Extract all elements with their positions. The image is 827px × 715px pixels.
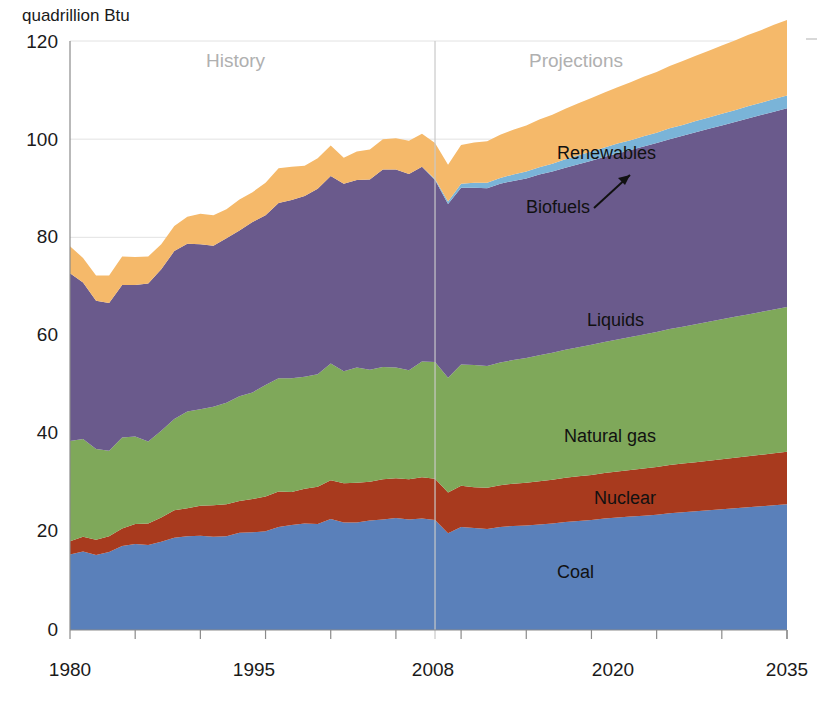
y-axis-unit-label: quadrillion Btu [22,6,130,25]
series-label-natural-gas: Natural gas [564,426,656,446]
x-tick-label-2035: 2035 [766,659,808,680]
y-tick-label-0: 0 [47,619,58,640]
series-label-liquids: Liquids [587,310,644,330]
series-label-coal: Coal [557,562,594,582]
x-tick-label-2008: 2008 [412,659,454,680]
series-label-biofuels: Biofuels [526,197,590,217]
x-tick-label-2020: 2020 [592,659,634,680]
projections-label: Projections [529,50,623,71]
y-tick-label-20: 20 [37,520,58,541]
y-tick-label-100: 100 [26,129,58,150]
corner-mark-decoration [806,38,817,40]
series-label-renewables: Renewables [557,143,656,163]
y-tick-label-80: 80 [37,226,58,247]
y-tick-label-60: 60 [37,324,58,345]
y-tick-label-40: 40 [37,422,58,443]
energy-consumption-stacked-area-chart: 120 100 80 60 40 20 0 1980 1995 2008 202… [0,0,827,715]
history-label: History [206,50,266,71]
chart-canvas: 120 100 80 60 40 20 0 1980 1995 2008 202… [0,0,827,715]
series-label-nuclear: Nuclear [594,488,656,508]
x-tick-label-1995: 1995 [233,659,275,680]
y-tick-label-120: 120 [26,31,58,52]
x-tick-label-1980: 1980 [49,659,91,680]
